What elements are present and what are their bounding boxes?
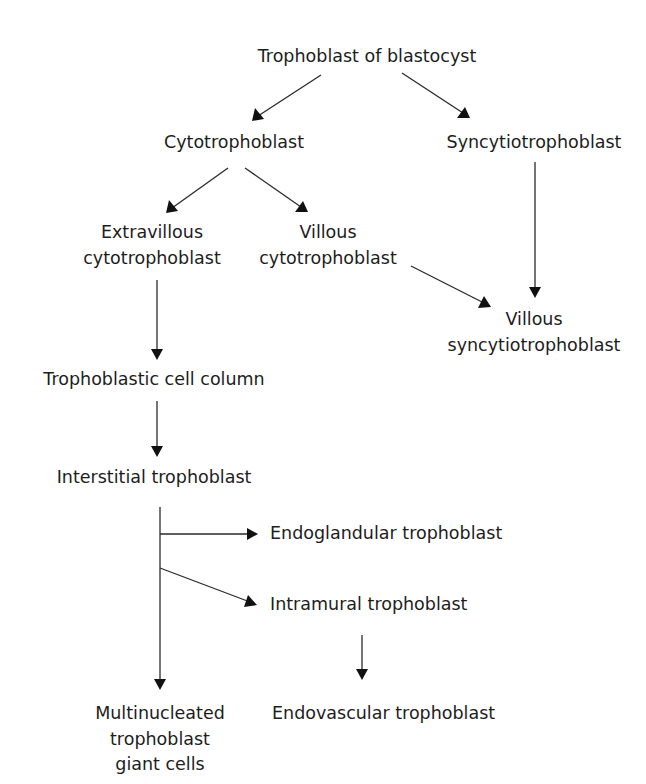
node-label: Cytotrophoblast <box>164 130 304 156</box>
node-syncytiotrophoblast: Syncytiotrophoblast <box>447 130 622 156</box>
node-trophoblastic-cell-column: Trophoblastic cell column <box>43 367 264 393</box>
node-label: Syncytiotrophoblast <box>447 130 622 156</box>
node-trophoblast-of-blastocyst: Trophoblast of blastocyst <box>258 44 477 70</box>
trophoblast-flowchart: Trophoblast of blastocyst Cytotrophoblas… <box>0 0 646 784</box>
node-cytotrophoblast: Cytotrophoblast <box>164 130 304 156</box>
arrow-villous-cyto-to-villous-syncytio <box>411 266 491 308</box>
node-label: Endovascular trophoblast <box>272 701 495 727</box>
arrow-extravillous-to-cell-column <box>151 280 163 360</box>
node-villous-cytotrophoblast: Villous cytotrophoblast <box>259 220 397 271</box>
node-label-line1: Villous <box>259 220 397 246</box>
arrow-cell-column-to-interstitial <box>151 401 163 457</box>
arrow-intramural-to-endovascular <box>356 635 368 680</box>
node-label-line2: syncytiotrophoblast <box>448 332 621 358</box>
arrow-syncytio-to-villous-syncytio <box>529 162 541 298</box>
node-label: Endoglandular trophoblast <box>270 521 502 547</box>
node-interstitial-trophoblast: Interstitial trophoblast <box>57 465 252 491</box>
node-label-line3: giant cells <box>95 752 225 778</box>
node-endovascular-trophoblast: Endovascular trophoblast <box>272 701 495 727</box>
node-label: Intramural trophoblast <box>270 592 467 618</box>
node-label-line2: cytotrophoblast <box>259 245 397 271</box>
node-label-line2: trophoblast <box>95 726 225 752</box>
node-label: Trophoblastic cell column <box>43 367 264 393</box>
arrow-cytotrophoblast-to-extravillous <box>166 168 228 213</box>
node-intramural-trophoblast: Intramural trophoblast <box>270 592 467 618</box>
arrow-blastocyst-to-syncytiotrophoblast <box>402 73 470 118</box>
arrow-cytotrophoblast-to-villous-cytotrophoblast <box>245 168 308 212</box>
node-multinucleated-giant-cells: Multinucleated trophoblast giant cells <box>95 701 225 778</box>
node-label: Trophoblast of blastocyst <box>258 44 477 70</box>
arrow-blastocyst-to-cytotrophoblast <box>252 75 321 121</box>
node-extravillous-cytotrophoblast: Extravillous cytotrophoblast <box>83 220 221 271</box>
arrow-interstitial-to-intramural <box>160 568 257 607</box>
node-label-line2: cytotrophoblast <box>83 245 221 271</box>
node-label-line1: Extravillous <box>83 220 221 246</box>
node-endoglandular-trophoblast: Endoglandular trophoblast <box>270 521 502 547</box>
arrow-interstitial-to-endoglandular <box>160 528 258 540</box>
node-label: Interstitial trophoblast <box>57 465 252 491</box>
node-villous-syncytiotrophoblast: Villous syncytiotrophoblast <box>448 307 621 358</box>
node-label-line1: Villous <box>448 307 621 333</box>
node-label-line1: Multinucleated <box>95 701 225 727</box>
